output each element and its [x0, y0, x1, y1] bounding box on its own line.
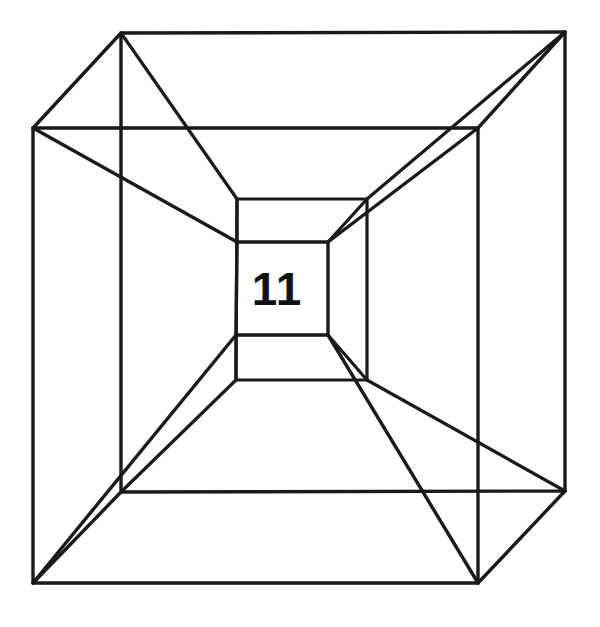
- radial-back-top-left-edge: [121, 33, 237, 199]
- tesseract-wireframe-svg: 11: [0, 0, 600, 627]
- radial-back-bottom-left-edge: [121, 380, 236, 492]
- center-number-label: 11: [252, 263, 303, 315]
- radial-front-bottom-left-edge: [33, 335, 236, 583]
- radial-back-bottom-right-edge: [367, 380, 565, 491]
- tesseract-figure: 11: [0, 0, 600, 627]
- radial-front-top-right-edge: [328, 128, 478, 242]
- outer-connector-bottom-right-edge: [478, 491, 565, 583]
- radial-front-top-left-edge: [33, 128, 237, 242]
- radial-back-top-right-edge: [367, 32, 565, 199]
- outer-connector-top-left-edge: [33, 33, 121, 128]
- outer-back-square-edge: [121, 32, 565, 492]
- radial-front-bottom-right-edge: [328, 335, 478, 583]
- outer-connector-top-right-edge: [478, 32, 565, 128]
